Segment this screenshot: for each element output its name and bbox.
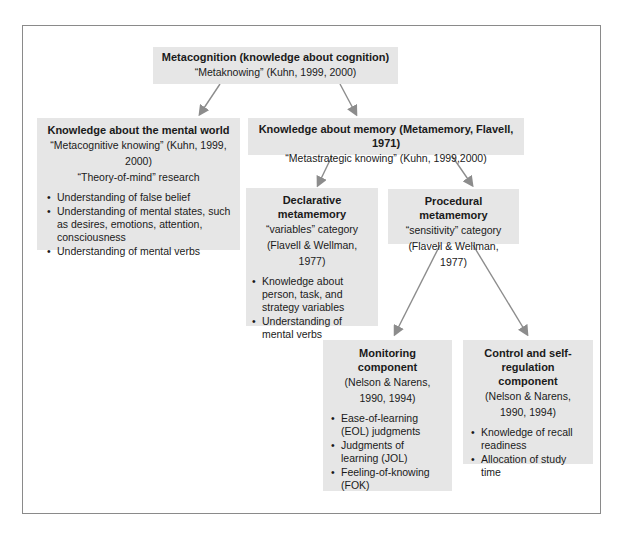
monitoring-subtitle: (Nelson & Narens, 1990, 1994) <box>331 374 444 406</box>
mental-world-subtitle-1: “Metacognitive knowing” (Kuhn, 1999, 200… <box>41 137 236 169</box>
list-item: Knowledge about person, task, and strate… <box>252 275 372 314</box>
procedural-title: Procedural metamemory <box>394 194 513 222</box>
list-item: Understanding of false belief <box>47 191 236 204</box>
declarative-subtitle-2: (Flavell & Wellman, 1977) <box>252 237 372 269</box>
memory-box: Knowledge about memory (Metamemory, Flav… <box>248 118 524 155</box>
procedural-box: Procedural metamemory “sensitivity” cate… <box>388 189 519 244</box>
control-box: Control and self-regulation component (N… <box>463 340 593 464</box>
mental-world-list: Understanding of false belief Understand… <box>41 191 236 258</box>
metacognition-subtitle: “Metaknowing” (Kuhn, 1999, 2000) <box>159 64 392 80</box>
control-subtitle: (Nelson & Narens, 1990, 1994) <box>471 388 585 420</box>
procedural-subtitle-2: (Flavell & Wellman, 1977) <box>394 238 513 270</box>
list-item: Understanding of mental verbs <box>252 315 372 341</box>
list-item: Judgments of learning (JOL) <box>331 439 444 465</box>
mental-world-subtitle-2: “Theory-of-mind” research <box>41 169 236 185</box>
declarative-subtitle-1: “variables” category <box>252 221 372 237</box>
control-title: Control and self-regulation component <box>471 346 585 388</box>
list-item: Knowledge of recall readiness <box>471 426 585 452</box>
metacognition-box: Metacognition (knowledge about cognition… <box>153 47 398 84</box>
memory-subtitle: “Metastrategic knowing” (Kuhn, 1999,2000… <box>254 150 518 166</box>
mental-world-box: Knowledge about the mental world “Metaco… <box>37 118 240 250</box>
list-item: Feeling-of-knowing (FOK) <box>331 466 444 492</box>
memory-title: Knowledge about memory (Metamemory, Flav… <box>254 122 518 150</box>
list-item: Understanding of mental verbs <box>47 245 236 258</box>
metacognition-title: Metacognition (knowledge about cognition… <box>159 50 392 64</box>
list-item: Understanding of mental states, such as … <box>47 205 236 244</box>
list-item: Allocation of study time <box>471 453 585 479</box>
procedural-subtitle-1: “sensitivity” category <box>394 222 513 238</box>
monitoring-list: Ease-of-learning (EOL) judgments Judgmen… <box>331 412 444 492</box>
list-item: Ease-of-learning (EOL) judgments <box>331 412 444 438</box>
control-list: Knowledge of recall readiness Allocation… <box>471 426 585 479</box>
monitoring-box: Monitoring component (Nelson & Narens, 1… <box>323 340 452 491</box>
mental-world-title: Knowledge about the mental world <box>41 123 236 137</box>
monitoring-title: Monitoring component <box>331 346 444 374</box>
declarative-title: Declarative metamemory <box>252 193 372 221</box>
declarative-box: Declarative metamemory “variables” categ… <box>246 188 378 326</box>
declarative-list: Knowledge about person, task, and strate… <box>252 275 372 341</box>
